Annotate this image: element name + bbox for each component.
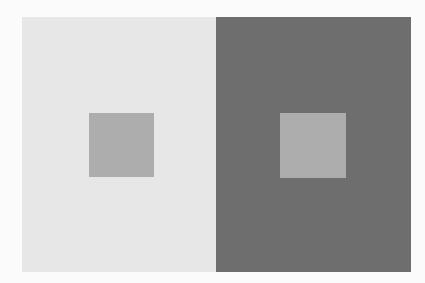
light-gray-square — [89, 113, 154, 177]
dark-gray-square — [280, 113, 346, 178]
